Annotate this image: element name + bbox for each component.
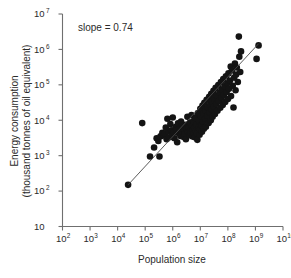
chart-figure: 1021031041051061071081091010 10102103104… — [0, 0, 291, 278]
x-tick-label: 10 — [249, 233, 260, 244]
x-tick-exponent: 3 — [94, 232, 98, 239]
data-point — [232, 87, 239, 94]
data-point — [228, 93, 235, 100]
x-tick-label: 10 — [84, 233, 95, 244]
x-tick-label: 10 — [111, 233, 122, 244]
data-point — [156, 153, 163, 160]
x-tick-exponent: 2 — [67, 232, 71, 239]
scatter-plot-svg: 1021031041051061071081091010 10102103104… — [0, 0, 291, 278]
data-point — [237, 69, 244, 76]
y-tick-label: 10 — [34, 150, 45, 161]
y-tick-exponent: 7 — [46, 7, 50, 14]
y-tick-label: 10 — [34, 79, 45, 90]
x-tick-exponent: 8 — [232, 232, 236, 239]
x-tick-label: 10 — [277, 233, 288, 244]
y-tick-label: 10 — [34, 185, 45, 196]
x-tick-exponent: 7 — [205, 232, 209, 239]
slope-annotation: slope = 0.74 — [78, 22, 133, 33]
data-point — [235, 79, 242, 86]
x-axis-tick-labels: 1021031041051061071081091010 — [56, 232, 291, 244]
y-axis-title-line1: Energy consumption — [9, 75, 20, 166]
x-tick-label: 10 — [139, 233, 150, 244]
y-axis-title-line2: (thousand tonnes of oil equivalent) — [21, 45, 32, 198]
y-tick-label: 10 — [34, 115, 45, 126]
y-tick-label: 10 — [34, 221, 45, 232]
data-point — [169, 114, 176, 121]
data-point — [151, 144, 158, 151]
y-tick-exponent: 6 — [46, 43, 50, 50]
data-point — [238, 48, 245, 55]
data-point — [139, 120, 146, 127]
y-tick-exponent: 5 — [46, 78, 50, 85]
x-tick-label: 10 — [194, 233, 205, 244]
x-tick-label: 10 — [221, 233, 232, 244]
data-point — [236, 33, 243, 40]
y-tick-label: 10 — [34, 44, 45, 55]
x-tick-label: 10 — [56, 233, 67, 244]
y-tick-label: 10 — [34, 8, 45, 19]
x-tick-exponent: 5 — [149, 232, 153, 239]
x-axis-title: Population size — [138, 254, 206, 265]
x-tick-exponent: 10 — [287, 232, 291, 239]
y-tick-exponent: 4 — [46, 114, 50, 121]
x-tick-exponent: 9 — [260, 232, 264, 239]
y-tick-exponent: 3 — [46, 149, 50, 156]
x-tick-exponent: 4 — [122, 232, 126, 239]
x-tick-label: 10 — [166, 233, 177, 244]
data-point — [174, 139, 181, 146]
data-point — [253, 56, 260, 63]
x-tick-exponent: 6 — [177, 232, 181, 239]
data-point — [230, 104, 237, 111]
data-point — [255, 42, 262, 49]
y-tick-exponent: 2 — [46, 184, 50, 191]
